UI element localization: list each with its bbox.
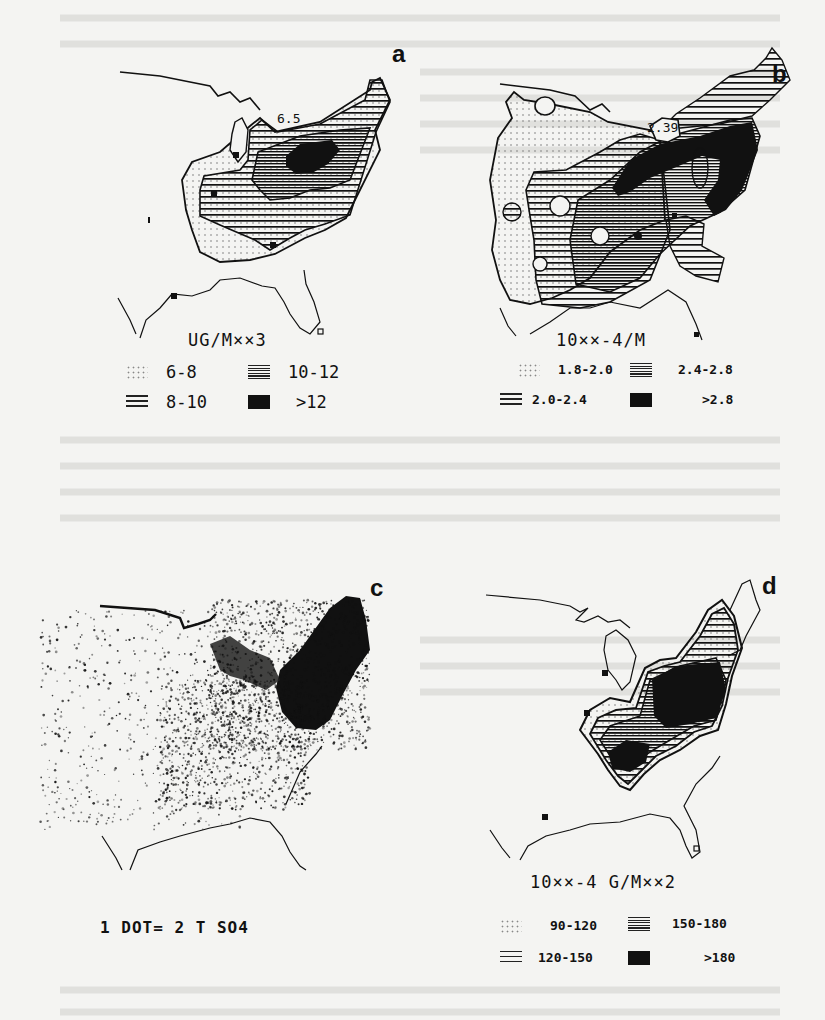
legend-title-b: 10××-4/M [556, 330, 646, 350]
legend-item-b-4: >2.8 [630, 392, 733, 407]
legend-item-a-3: 8-10 [126, 392, 207, 412]
dense-lines-swatch-icon [248, 365, 270, 379]
map-d [480, 540, 825, 870]
map-a [100, 40, 420, 340]
legend-item-b-2: 2.4-2.8 [630, 362, 733, 377]
legend-item-a-4: >12 [248, 392, 327, 412]
solid-swatch-icon [248, 395, 270, 409]
legend-item-b-1: 1.8-2.0 [518, 362, 613, 377]
annotation-2-39: 2.39 [647, 120, 678, 135]
caption-dot-scale: 1 DOT= 2 T SO4 [100, 918, 249, 937]
lines-swatch-icon [126, 395, 148, 409]
legend-item-d-2: 150-180 [628, 916, 727, 931]
legend-title-d: 10××-4 G/M××2 [530, 872, 676, 892]
legend-item-d-4: >180 [628, 950, 735, 965]
legend-item-a-2: 10-12 [248, 362, 339, 382]
dots-swatch-icon [126, 365, 148, 379]
map-b [490, 40, 825, 340]
panel-b: b 2.39 10××-4/M 1.8-2.0 2.4 [490, 40, 825, 440]
legend-item-a-1: 6-8 [126, 362, 197, 382]
dense-lines-swatch-icon [628, 917, 650, 931]
panel-d: d 10××-4 G/M××2 90-120 150-180 120 [480, 540, 825, 1010]
solid-swatch-icon [628, 951, 650, 965]
legend-item-d-1: 90-120 [500, 918, 597, 933]
panel-c: c 1 DOT= 2 T SO4 [30, 540, 410, 960]
legend-title-a: UG/M××3 [188, 330, 267, 350]
lines-swatch-icon [500, 393, 522, 407]
dots-swatch-icon [500, 919, 522, 933]
legend-item-b-3: 2.0-2.4 [500, 392, 587, 407]
legend-item-d-3: 120-150 [500, 950, 593, 965]
lines-swatch-icon [500, 951, 522, 965]
dots-swatch-icon [518, 363, 540, 377]
dense-lines-swatch-icon [630, 363, 652, 377]
annotation-6-5: 6.5 [277, 111, 300, 126]
map-c [30, 540, 410, 870]
solid-swatch-icon [630, 393, 652, 407]
panel-a: a 6.5 UG/M××3 6-8 10-12 8-10 [100, 40, 420, 440]
